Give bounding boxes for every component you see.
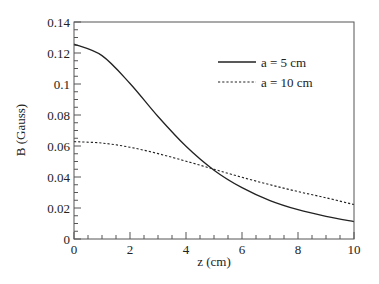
legend-label-a5: a = 5 cm [261, 55, 306, 70]
plot-frame [74, 22, 354, 239]
y-tick-label: 0.04 [47, 170, 70, 185]
line-chart: 0246810 00.020.040.060.080.10.120.14 z (… [0, 0, 379, 284]
major-ticks [74, 22, 354, 239]
y-tick-label: 0.06 [47, 139, 70, 154]
y-tick-label: 0.1 [54, 77, 70, 92]
x-axis-label: z (cm) [197, 254, 231, 269]
y-axis-label: B (Gauss) [13, 104, 28, 156]
series-lines [74, 44, 354, 221]
y-tick-label: 0 [64, 232, 71, 247]
legend-label-a10: a = 10 cm [261, 75, 313, 90]
series-line-a10 [74, 142, 354, 205]
x-tick-label: 2 [127, 242, 134, 257]
y-tick-label: 0.02 [47, 201, 70, 216]
x-tick-label: 0 [71, 242, 78, 257]
x-tick-label: 8 [295, 242, 302, 257]
x-tick-label: 4 [183, 242, 190, 257]
x-tick-label: 6 [239, 242, 246, 257]
y-tick-label: 0.08 [47, 108, 70, 123]
y-tick-label: 0.12 [47, 46, 70, 61]
y-tick-labels: 00.020.040.060.080.10.120.14 [47, 15, 70, 247]
legend: a = 5 cm a = 10 cm [218, 55, 313, 90]
y-tick-label: 0.14 [47, 15, 70, 30]
x-tick-label: 10 [348, 242, 361, 257]
